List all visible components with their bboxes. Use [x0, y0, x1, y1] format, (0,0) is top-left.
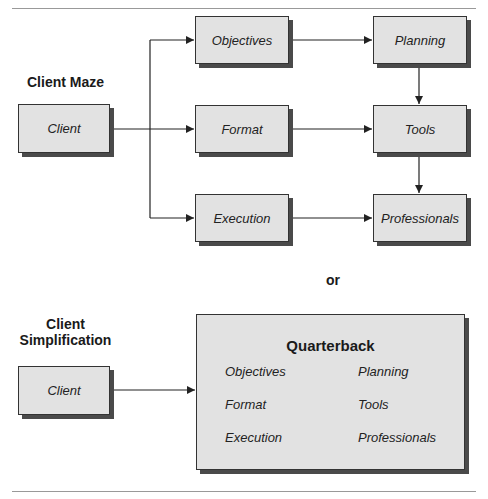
client-box-simple: Client [18, 366, 110, 415]
qb-format: Format [225, 397, 266, 412]
qb-objectives: Objectives [225, 364, 286, 379]
title-line1: Client [18, 316, 113, 332]
planning-box: Planning [373, 16, 467, 64]
title-line2: Simplification [18, 332, 113, 348]
client-box: Client [18, 104, 110, 153]
objectives-box: Objectives [195, 16, 289, 64]
quarterback-box: Quarterback Objectives Format Execution … [196, 314, 465, 470]
tools-box: Tools [373, 105, 467, 153]
simplification-title: ClientSimplification [18, 316, 113, 348]
quarterback-title: Quarterback [197, 337, 464, 354]
execution-box: Execution [195, 194, 289, 242]
diagram: Client Maze Client Objectives Format Exe… [0, 0, 488, 499]
or-label: or [326, 272, 340, 288]
qb-professionals: Professionals [358, 430, 436, 445]
qb-execution: Execution [225, 430, 282, 445]
professionals-box: Professionals [373, 194, 467, 242]
format-box: Format [195, 105, 289, 153]
maze-title: Client Maze [27, 74, 104, 90]
qb-planning: Planning [358, 364, 409, 379]
qb-tools: Tools [358, 397, 389, 412]
